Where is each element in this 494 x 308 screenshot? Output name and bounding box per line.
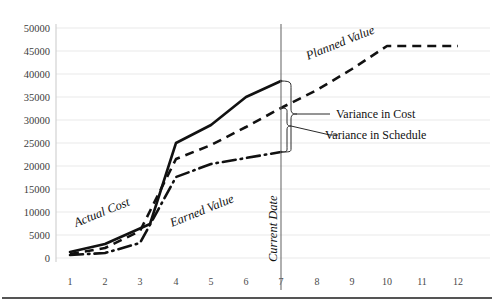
y-tick-label: 40000 (24, 69, 50, 80)
x-tick-label: 5 (209, 276, 214, 287)
y-tick-label: 50000 (24, 23, 50, 34)
x-tick-label: 11 (417, 276, 427, 287)
series-earned-value (70, 152, 281, 255)
x-tick-label: 2 (103, 276, 108, 287)
evm-s-curve-chart: 50000 45000 40000 35000 30000 25000 2000… (0, 0, 494, 308)
x-axis-tick-labels: 1 2 3 4 5 6 7 8 9 10 11 12 (68, 276, 464, 287)
series-planned-value (70, 46, 458, 254)
y-tick-label: 0 (45, 253, 50, 264)
x-tick-label: 10 (382, 276, 392, 287)
planned-value-label: Planned Value (303, 22, 377, 63)
x-tick-label: 12 (453, 276, 463, 287)
x-tick-label: 3 (138, 276, 143, 287)
chart-root: 50000 45000 40000 35000 30000 25000 2000… (0, 0, 494, 308)
y-tick-label: 25000 (24, 138, 50, 149)
y-tick-label: 5000 (29, 230, 50, 241)
x-tick-label: 8 (315, 276, 320, 287)
current-date-label: Current Date (266, 195, 280, 262)
y-tick-label: 15000 (24, 184, 50, 195)
y-axis-tick-labels: 50000 45000 40000 35000 30000 25000 2000… (24, 23, 50, 264)
variance-in-cost-label: Variance in Cost (336, 107, 416, 121)
x-tick-label: 6 (244, 276, 249, 287)
variance-in-schedule-brace (281, 108, 291, 152)
y-tick-label: 35000 (24, 92, 50, 103)
y-tick-label: 30000 (24, 115, 50, 126)
y-tick-label: 20000 (24, 161, 50, 172)
variance-in-schedule-label: Variance in Schedule (325, 128, 426, 142)
y-tick-label: 10000 (24, 207, 50, 218)
y-tick-label: 45000 (24, 46, 50, 57)
x-tick-label: 1 (68, 276, 73, 287)
x-tick-label: 4 (174, 276, 179, 287)
earned-value-label: Earned Value (167, 191, 236, 230)
x-tick-label: 9 (350, 276, 355, 287)
variance-in-cost-brace (281, 81, 297, 152)
